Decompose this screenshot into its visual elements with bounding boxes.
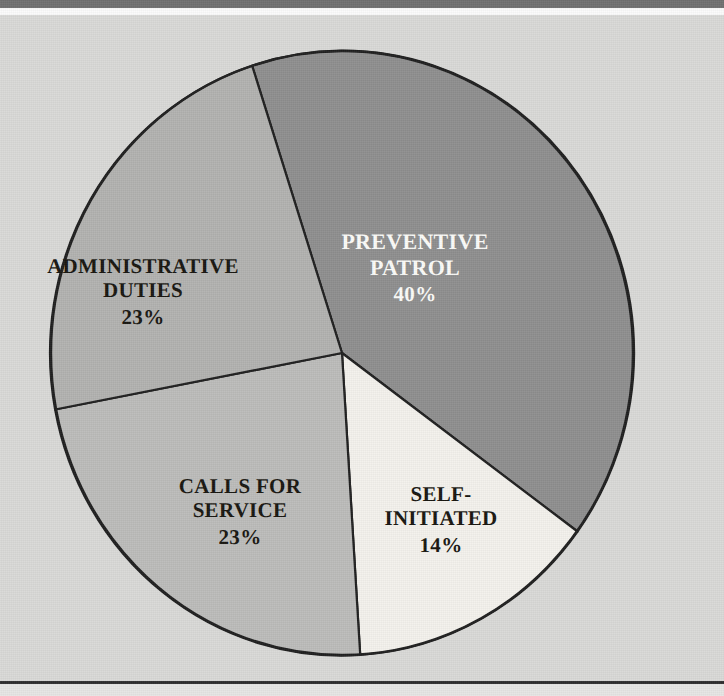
pie-chart-page: PREVENTIVE PATROL 40% ADMINISTRATIVE DUT… xyxy=(0,0,724,696)
pie-label-line-1: SELF- xyxy=(356,482,526,506)
bottom-margin-strip xyxy=(0,684,724,696)
pie-label-line-1: PREVENTIVE xyxy=(300,229,530,255)
pie-chart-figure: PREVENTIVE PATROL 40% ADMINISTRATIVE DUT… xyxy=(0,15,724,681)
pie-label-line-1: CALLS FOR xyxy=(140,474,340,498)
pie-label-line-2: INITIATED xyxy=(356,506,526,530)
top-white-strip xyxy=(0,8,724,15)
pie-chart-svg xyxy=(0,15,724,681)
pie-label-percent: 40% xyxy=(300,282,530,306)
top-dark-band xyxy=(0,0,724,8)
pie-label-line-1: ADMINISTRATIVE xyxy=(8,254,278,278)
pie-label-preventive-patrol: PREVENTIVE PATROL 40% xyxy=(300,229,530,306)
pie-slices xyxy=(50,51,634,656)
pie-label-line-2: DUTIES xyxy=(8,278,278,302)
pie-label-administrative-duties: ADMINISTRATIVE DUTIES 23% xyxy=(8,254,278,329)
pie-label-percent: 23% xyxy=(8,305,278,329)
bottom-horizontal-rule xyxy=(0,681,724,684)
pie-label-line-2: PATROL xyxy=(300,255,530,281)
pie-label-percent: 23% xyxy=(140,525,340,549)
pie-label-percent: 14% xyxy=(356,533,526,557)
pie-label-line-2: SERVICE xyxy=(140,498,340,522)
pie-label-calls-for-service: CALLS FOR SERVICE 23% xyxy=(140,474,340,549)
pie-label-self-initiated: SELF- INITIATED 14% xyxy=(356,482,526,557)
